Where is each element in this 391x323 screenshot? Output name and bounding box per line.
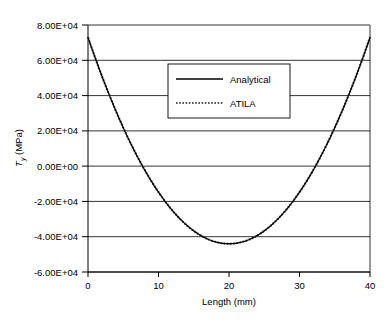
x-tick-marks bbox=[88, 272, 370, 277]
y-tick-label: -6.00E+04 bbox=[34, 267, 78, 278]
legend-label-analytical: Analytical bbox=[230, 74, 271, 85]
y-axis-title: Ty (MPa) bbox=[13, 129, 27, 167]
x-tick-labels: 0 10 20 30 40 bbox=[85, 280, 375, 291]
y-tick-label: 4.00E+04 bbox=[37, 90, 78, 101]
y-tick-label: 6.00E+04 bbox=[37, 55, 78, 66]
y-tick-label: 0.00E+00 bbox=[37, 161, 78, 172]
y-tick-labels: 8.00E+04 6.00E+04 4.00E+04 2.00E+04 0.00… bbox=[34, 20, 78, 278]
plot-background bbox=[88, 25, 370, 272]
x-tick-label: 10 bbox=[153, 280, 164, 291]
legend-box bbox=[168, 64, 290, 118]
y-tick-label: -4.00E+04 bbox=[34, 231, 78, 242]
legend-label-atila: ATILA bbox=[230, 98, 256, 109]
x-tick-label: 30 bbox=[294, 280, 305, 291]
chart-container: 8.00E+04 6.00E+04 4.00E+04 2.00E+04 0.00… bbox=[0, 0, 391, 323]
y-tick-label: 8.00E+04 bbox=[37, 20, 78, 31]
y-tick-marks bbox=[82, 25, 88, 272]
x-tick-label: 40 bbox=[365, 280, 376, 291]
y-tick-label: -2.00E+04 bbox=[34, 196, 78, 207]
x-tick-label: 0 bbox=[85, 280, 90, 291]
y-tick-label: 2.00E+04 bbox=[37, 125, 78, 136]
svg-text:Ty (MPa): Ty (MPa) bbox=[13, 129, 27, 167]
legend: Analytical ATILA bbox=[168, 64, 290, 118]
chart-plot: 8.00E+04 6.00E+04 4.00E+04 2.00E+04 0.00… bbox=[0, 0, 391, 323]
y-axis-title-units: (MPa) bbox=[13, 129, 24, 158]
x-tick-label: 20 bbox=[224, 280, 235, 291]
x-axis-title: Length (mm) bbox=[202, 296, 256, 307]
